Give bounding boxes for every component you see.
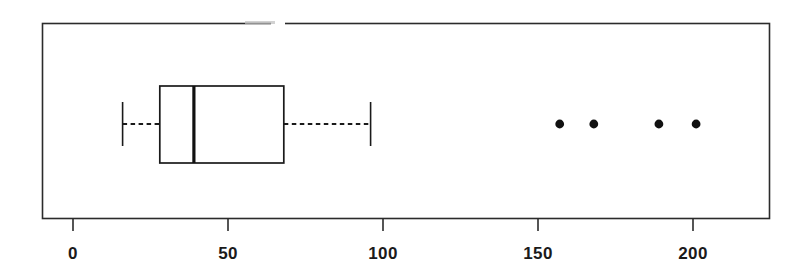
scan-artifact-smudge [245,21,275,24]
x-axis-ticks [73,219,693,231]
boxplot-figure: 0 50 100 150 200 [0,0,810,276]
outlier-points [555,120,700,129]
outlier-point [692,120,701,129]
x-tick-label-0: 0 [68,245,78,262]
x-tick-label-150: 150 [523,245,553,262]
outlier-point [589,120,598,129]
x-tick-label-50: 50 [218,245,238,262]
outlier-point [655,120,664,129]
iqr-box [160,86,284,163]
x-tick-label-100: 100 [368,245,398,262]
x-tick-label-200: 200 [678,245,708,262]
outlier-point [555,120,564,129]
boxplot-canvas [0,0,810,276]
